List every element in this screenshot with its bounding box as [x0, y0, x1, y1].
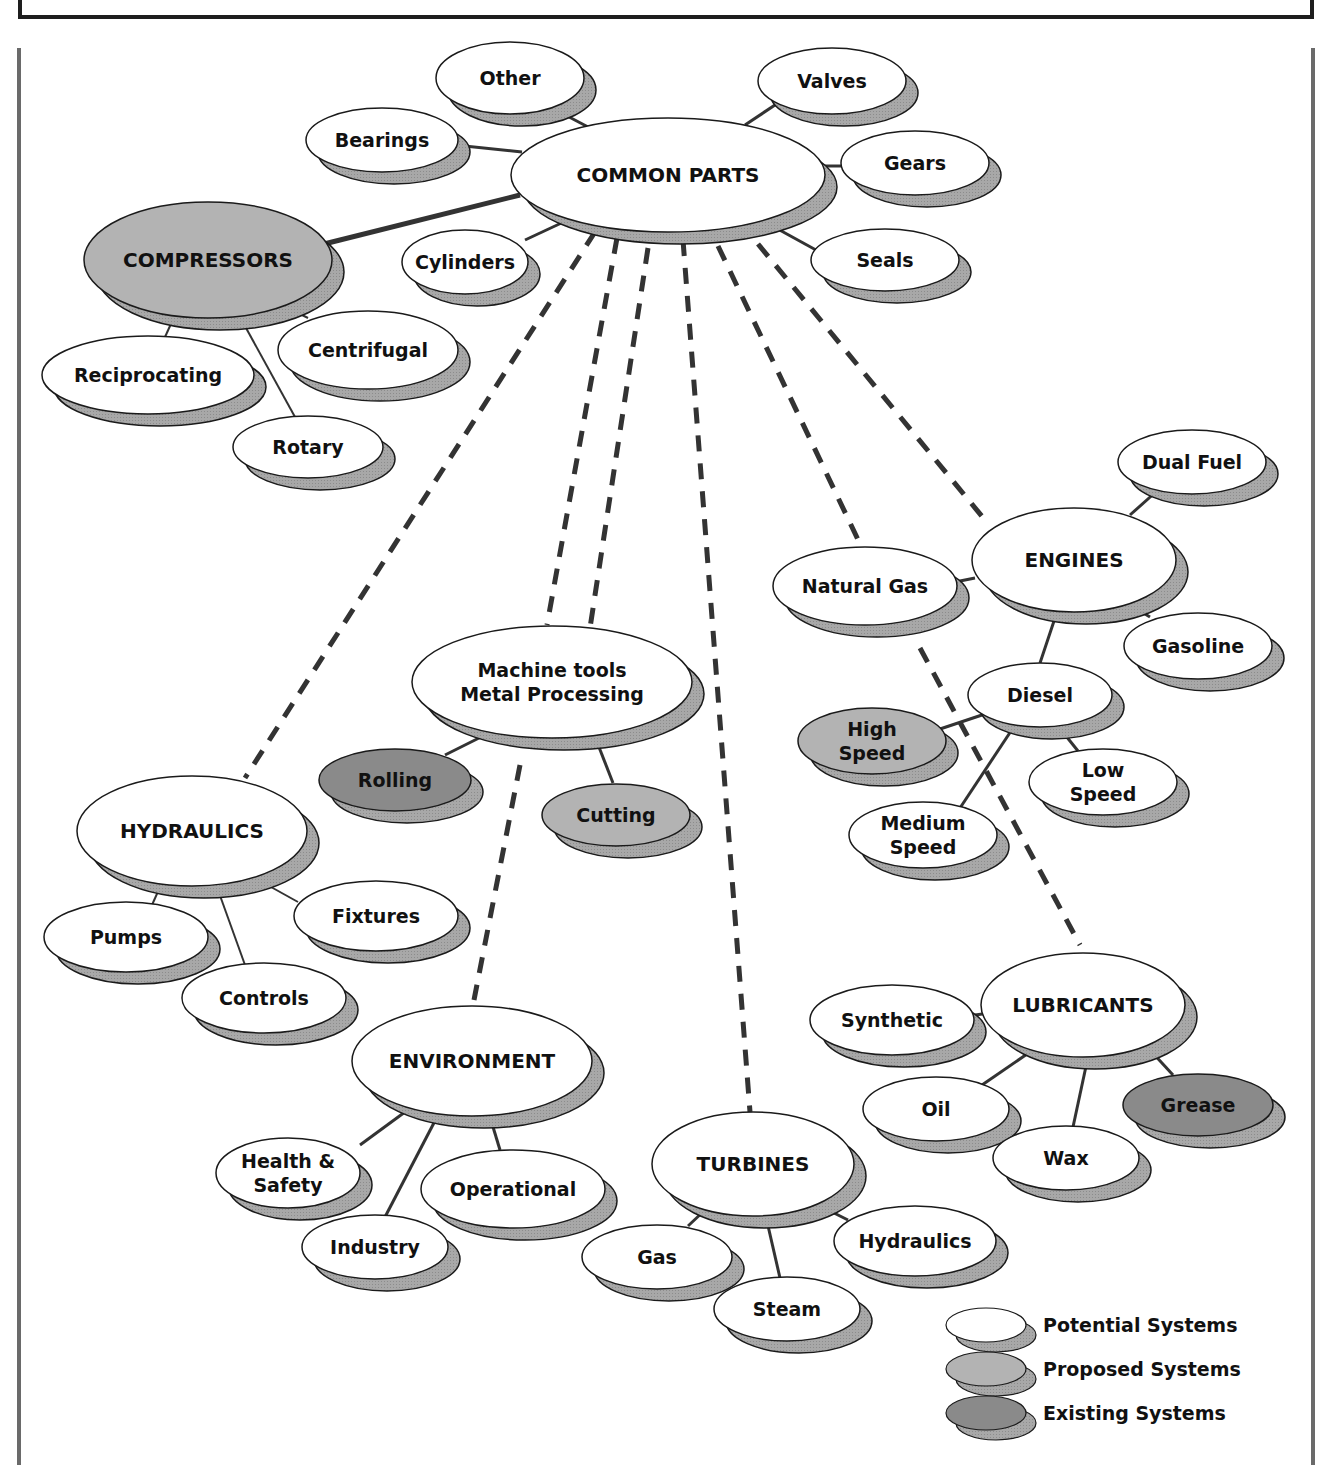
node-controls[interactable]: Controls — [182, 963, 358, 1045]
legend-label: Proposed Systems — [1043, 1358, 1241, 1380]
node-pumps[interactable]: Pumps — [44, 902, 220, 984]
node-cutting[interactable]: Cutting — [542, 784, 702, 858]
node-label: Centrifugal — [308, 339, 428, 361]
legend-label: Potential Systems — [1043, 1314, 1237, 1336]
node-label: LUBRICANTS — [1012, 993, 1153, 1017]
dashed-link — [547, 238, 617, 625]
dashed-link — [590, 248, 648, 628]
node-label: Steam — [753, 1298, 821, 1320]
legend-swatch — [946, 1308, 1026, 1342]
legend: Potential SystemsProposed SystemsExistin… — [946, 1308, 1241, 1440]
node-rotary[interactable]: Rotary — [233, 416, 395, 490]
node-label: Gas — [637, 1246, 677, 1268]
nodes-layer: COMMON PARTSOtherValvesBearingsGearsCOMP… — [42, 42, 1285, 1353]
node-seals[interactable]: Seals — [811, 229, 971, 303]
node-engines[interactable]: ENGINES — [972, 508, 1188, 624]
solid-link — [982, 1052, 1030, 1085]
node-steam[interactable]: Steam — [714, 1277, 872, 1353]
node-valves[interactable]: Valves — [758, 48, 918, 126]
node-grease[interactable]: Grease — [1123, 1074, 1285, 1148]
node-label: Controls — [219, 987, 309, 1009]
node-hydraulics2[interactable]: Hydraulics — [834, 1206, 1008, 1288]
node-machinetools[interactable]: Machine toolsMetal Processing — [412, 626, 704, 750]
node-industry[interactable]: Industry — [302, 1215, 460, 1291]
node-label: Low — [1082, 759, 1125, 781]
node-diesel[interactable]: Diesel — [968, 663, 1124, 739]
node-healthsafety[interactable]: Health &Safety — [216, 1138, 372, 1220]
node-compressors[interactable]: COMPRESSORS — [84, 202, 344, 330]
node-label: Speed — [839, 742, 906, 764]
solid-link — [218, 890, 245, 965]
node-label: Synthetic — [841, 1009, 943, 1031]
node-label: HYDRAULICS — [120, 819, 264, 843]
node-synthetic[interactable]: Synthetic — [810, 985, 986, 1067]
node-label: Other — [479, 67, 541, 89]
node-oil[interactable]: Oil — [863, 1077, 1021, 1153]
node-mediumspeed[interactable]: MediumSpeed — [849, 802, 1009, 880]
node-label: Pumps — [90, 926, 162, 948]
node-label: Metal Processing — [460, 683, 644, 705]
node-label: Hydraulics — [858, 1230, 971, 1252]
node-label: Grease — [1161, 1094, 1236, 1116]
node-dualfuel[interactable]: Dual Fuel — [1118, 430, 1278, 506]
mind-map: COMMON PARTSOtherValvesBearingsGearsCOMP… — [0, 0, 1325, 1475]
node-label: Oil — [921, 1098, 950, 1120]
node-turbines[interactable]: TURBINES — [652, 1112, 866, 1228]
node-label: Dual Fuel — [1142, 451, 1242, 473]
node-label: High — [847, 718, 897, 740]
node-gears[interactable]: Gears — [841, 131, 1001, 207]
node-highspeed[interactable]: HighSpeed — [798, 708, 958, 786]
node-label: Bearings — [335, 129, 430, 151]
node-operational[interactable]: Operational — [421, 1150, 617, 1240]
node-label: Speed — [1070, 783, 1137, 805]
node-environment[interactable]: ENVIRONMENT — [352, 1006, 604, 1128]
solid-link — [745, 103, 778, 125]
node-hydraulics[interactable]: HYDRAULICS — [77, 776, 319, 898]
node-lubricants[interactable]: LUBRICANTS — [981, 953, 1197, 1069]
node-gas[interactable]: Gas — [582, 1225, 744, 1301]
node-cylinders[interactable]: Cylinders — [402, 230, 540, 306]
node-label: Operational — [450, 1178, 576, 1200]
node-label: Health & — [241, 1150, 335, 1172]
solid-link — [445, 736, 483, 755]
legend-item-existing: Existing Systems — [946, 1396, 1226, 1440]
solid-link — [360, 1112, 405, 1145]
node-label: Cylinders — [415, 251, 515, 273]
node-label: Reciprocating — [74, 364, 222, 386]
node-label: Fixtures — [332, 905, 420, 927]
node-label: TURBINES — [697, 1152, 810, 1176]
node-label: Rotary — [272, 436, 344, 458]
node-other[interactable]: Other — [436, 42, 596, 126]
node-wax[interactable]: Wax — [993, 1126, 1151, 1202]
legend-swatch — [946, 1352, 1026, 1386]
node-label: Valves — [797, 70, 867, 92]
node-label: Cutting — [576, 804, 655, 826]
node-label: Seals — [856, 249, 913, 271]
node-label: Rolling — [358, 769, 432, 791]
node-label: ENVIRONMENT — [389, 1049, 556, 1073]
node-label: Natural Gas — [802, 575, 928, 597]
legend-item-proposed: Proposed Systems — [946, 1352, 1241, 1396]
node-label: COMMON PARTS — [576, 163, 759, 187]
node-label: Safety — [253, 1174, 323, 1196]
node-label: Medium — [880, 812, 965, 834]
legend-label: Existing Systems — [1043, 1402, 1226, 1424]
node-bearings[interactable]: Bearings — [306, 108, 470, 184]
node-label: Diesel — [1007, 684, 1073, 706]
node-reciprocating[interactable]: Reciprocating — [42, 336, 266, 426]
solid-link — [960, 725, 1015, 808]
node-label: Gears — [884, 152, 946, 174]
node-centrifugal[interactable]: Centrifugal — [278, 311, 470, 401]
node-label: Wax — [1043, 1147, 1088, 1169]
node-gasoline[interactable]: Gasoline — [1124, 613, 1284, 691]
node-label: ENGINES — [1024, 548, 1123, 572]
node-fixtures[interactable]: Fixtures — [294, 881, 470, 963]
legend-item-potential: Potential Systems — [946, 1308, 1237, 1352]
node-label: COMPRESSORS — [123, 248, 293, 272]
node-naturalgas[interactable]: Natural Gas — [773, 547, 969, 637]
node-label: Speed — [890, 836, 957, 858]
node-label: Industry — [330, 1236, 420, 1258]
node-lowspeed[interactable]: LowSpeed — [1029, 749, 1189, 827]
node-rolling[interactable]: Rolling — [319, 749, 483, 823]
node-label: Machine tools — [477, 659, 626, 681]
